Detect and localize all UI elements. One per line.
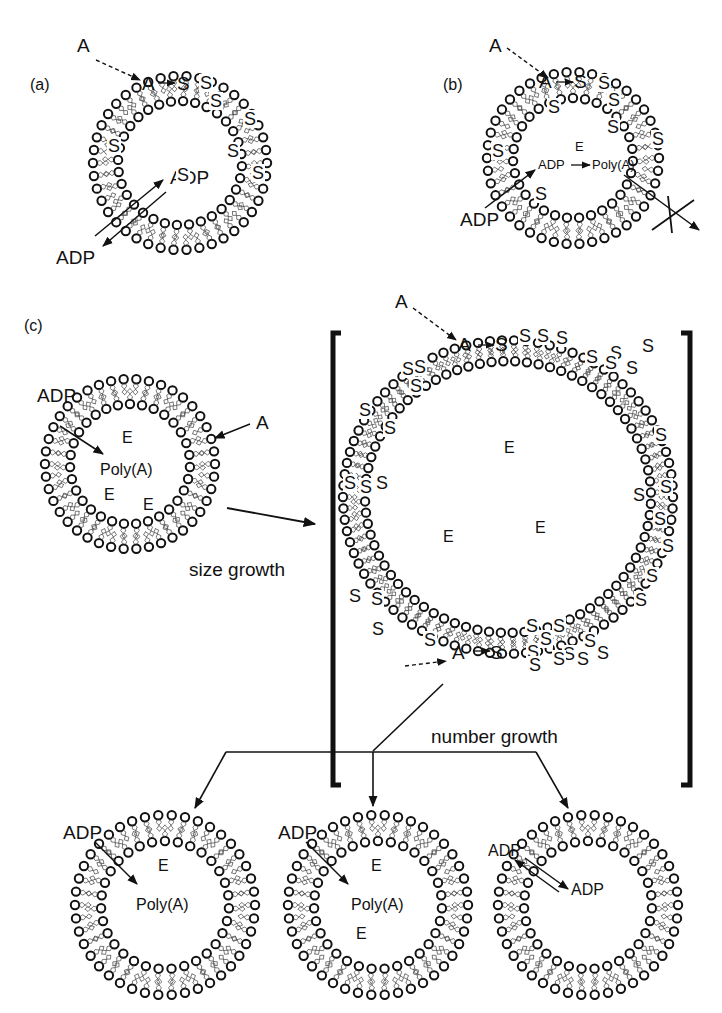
surfactant-s-glyph: S — [383, 419, 397, 437]
surfactant-s-glyph: S — [585, 348, 599, 366]
surface-s-label-grown-bottom: S — [490, 643, 503, 662]
surfactant-s-glyph: S — [409, 377, 423, 395]
surfactant-s-glyph: S — [555, 329, 569, 347]
adp-label-parent: ADP — [37, 386, 76, 405]
surfactant-s-glyph: S — [606, 118, 620, 136]
block-cross-icon — [652, 196, 694, 233]
surfactant-s-glyph: S — [176, 166, 190, 184]
surfactant-s-glyph: S — [651, 130, 665, 148]
surfactant-s-glyph: S — [107, 137, 121, 155]
surfactant-s-glyph: S — [534, 185, 548, 203]
dashed-arrow-bottom-grown — [405, 661, 446, 666]
surfactant-s-glyph: S — [348, 587, 362, 605]
surfactant-s-glyph: S — [370, 590, 384, 608]
membrane-a-label-grown-top: A — [458, 335, 471, 354]
adp-label-daughter-2: ADP — [278, 823, 317, 842]
enzyme-label-daughter-2-1: E — [371, 858, 382, 874]
surfactant-s-glyph: S — [552, 617, 566, 635]
membrane-a-label-a: A — [142, 74, 155, 93]
surfactant-s-glyph: S — [413, 358, 427, 376]
surfactant-s-glyph: S — [659, 478, 673, 496]
enzyme-label-parent-3: E — [143, 497, 154, 513]
panel-label-a: (a) — [30, 77, 50, 93]
vesicle-b — [483, 68, 663, 248]
membrane-a-label-grown-bottom: A — [452, 643, 465, 662]
left-bracket — [333, 333, 341, 785]
surfactant-s-glyph: S — [251, 164, 265, 182]
surfactant-s-glyph: S — [375, 474, 389, 492]
vesicle-growth-diagram: (a) A A S ADP ADP (b) A A S E ADP Poly(A… — [0, 0, 722, 1013]
surfactant-s-glyph: S — [358, 401, 372, 419]
adp-out-arrow-d3 — [515, 860, 559, 892]
surfactant-s-glyph: S — [583, 632, 597, 650]
enzyme-label-parent-2: E — [104, 487, 115, 503]
panel-label-b: (b) — [443, 77, 463, 93]
right-bracket — [681, 333, 690, 785]
surfactant-s-glyph: S — [243, 110, 257, 128]
surfactant-s-glyph: S — [536, 327, 550, 345]
surfactant-s-glyph: S — [518, 327, 532, 345]
size-growth-arrow — [227, 508, 315, 524]
surfactant-s-glyph: S — [371, 620, 385, 638]
surfactant-s-glyph: S — [604, 354, 618, 372]
dashed-arrow-a — [96, 60, 140, 80]
enzyme-label-grown-2: E — [443, 529, 454, 545]
external-a-label-grown: A — [395, 292, 408, 311]
enzyme-label-grown-1: E — [504, 440, 515, 456]
blocked-efflux-arrow-b — [624, 175, 699, 230]
adp-outside-label-b: ADP — [460, 210, 499, 229]
a-arrow-c — [215, 424, 250, 438]
polya-label-daughter-2: Poly(A) — [351, 897, 403, 913]
branch-arrow-left — [195, 752, 226, 808]
enzyme-label-daughter-1: E — [158, 858, 169, 874]
adp-out-label-daughter-3: ADP — [488, 843, 521, 859]
surfactant-s-glyph: S — [199, 74, 213, 92]
surfactant-s-glyph: S — [525, 617, 539, 635]
surfactant-s-glyph: S — [528, 656, 542, 674]
polya-label-daughter-1: Poly(A) — [136, 897, 188, 913]
dashed-arrow-top-grown — [413, 308, 456, 340]
surfactant-s-glyph: S — [634, 591, 648, 609]
polya-product-label-b: Poly(A) — [592, 158, 635, 171]
enzyme-label-daughter-2-2: E — [356, 926, 367, 942]
adp-label-daughter-1: ADP — [63, 823, 102, 842]
surfactant-s-glyph: S — [359, 478, 373, 496]
size-growth-label: size growth — [189, 560, 285, 579]
surfactant-s-glyph: S — [539, 630, 553, 648]
surfactant-s-glyph: S — [653, 510, 667, 528]
surfactant-s-glyph: S — [661, 537, 675, 555]
surfactant-s-glyph: S — [209, 92, 223, 110]
membrane-a-label-b: A — [539, 72, 552, 91]
adp-reactant-label-b: ADP — [538, 158, 565, 171]
surfactant-s-glyph: S — [596, 644, 610, 662]
a-label-parent: A — [256, 413, 269, 432]
branch-arrow-right — [536, 752, 568, 808]
arrow-layer — [60, 48, 699, 892]
vesicle-layer — [41, 68, 682, 999]
surfactant-s-glyph: S — [547, 98, 561, 116]
enzyme-label-parent-1: E — [122, 430, 133, 446]
surfactant-s-glyph: S — [576, 650, 590, 668]
panel-label-c: (c) — [24, 318, 43, 334]
adp-outside-label-a: ADP — [56, 248, 95, 267]
surfactant-s-glyph: S — [645, 567, 659, 585]
surfactant-s-glyph: S — [491, 142, 505, 160]
surfactant-s-glyph: S — [625, 359, 639, 377]
surfactant-s-glyph: S — [343, 474, 357, 492]
vesicle-c-grown — [339, 336, 677, 658]
surfactant-s-glyph: S — [226, 142, 240, 160]
external-a-label-b: A — [489, 36, 502, 55]
vesicle-a — [89, 72, 271, 254]
surfactant-s-glyph: S — [632, 486, 646, 504]
surface-s-label-grown-top: S — [495, 335, 508, 354]
polya-label-parent: Poly(A) — [100, 462, 152, 478]
surface-s-label-a: S — [177, 74, 190, 93]
surfactant-s-glyph: S — [654, 426, 668, 444]
number-growth-label: number growth — [431, 727, 558, 746]
enzyme-label-grown-3: E — [535, 520, 546, 536]
external-a-label-a: A — [77, 36, 90, 55]
surface-s-label-b: S — [574, 72, 587, 91]
surfactant-s-glyph: S — [423, 631, 437, 649]
vesicle-daughter-3 — [494, 811, 682, 999]
adp-in-label-daughter-3: ADP — [571, 882, 604, 898]
